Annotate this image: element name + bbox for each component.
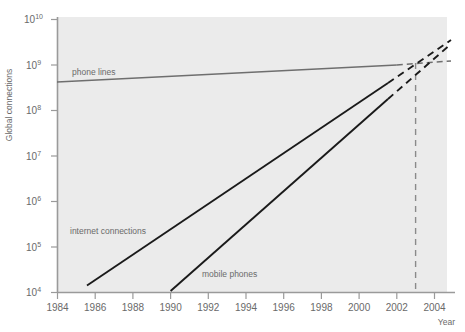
x-axis-title: Year	[438, 317, 455, 327]
y-tick-label-10-5: 105	[26, 241, 41, 253]
line-chart: 1010 109 108 107 106 105 104 Global conn…	[0, 0, 465, 332]
y-tick-label-10-8: 108	[26, 104, 41, 116]
y-tick-label-10-9: 109	[26, 59, 41, 71]
x-tick-label-1986: 1986	[84, 302, 107, 313]
y-axis-title: Global connections	[4, 69, 14, 141]
y-tick-label-10-4: 104	[26, 286, 41, 298]
y-tick-label-10-10: 1010	[24, 13, 43, 25]
x-tick-label-2004: 2004	[423, 302, 446, 313]
x-tick-label-2002: 2002	[386, 302, 409, 313]
x-tick-label-1994: 1994	[235, 302, 258, 313]
y-axis-tick-labels: 1010 109 108 107 106 105 104	[24, 13, 43, 298]
y-axis-ticks	[51, 20, 57, 293]
series-label-mobile-phones: mobile phones	[202, 269, 257, 279]
x-tick-label-1988: 1988	[122, 302, 145, 313]
y-tick-label-10-6: 106	[26, 195, 41, 207]
x-tick-label-2000: 2000	[348, 302, 371, 313]
x-tick-label-1984: 1984	[46, 302, 69, 313]
series-label-internet-connections: internet connections	[70, 226, 146, 236]
chart-page: 1010 109 108 107 106 105 104 Global conn…	[0, 0, 465, 332]
x-axis-ticks	[58, 293, 435, 300]
x-tick-label-1992: 1992	[197, 302, 220, 313]
x-axis-tick-labels: 1984 1986 1988 1990 1992 1994 1996 1998 …	[46, 302, 446, 313]
x-tick-label-1990: 1990	[159, 302, 182, 313]
y-tick-label-10-7: 107	[26, 150, 41, 162]
plot-background	[57, 17, 447, 292]
x-tick-label-1996: 1996	[273, 302, 296, 313]
series-label-phone-lines: phone lines	[72, 67, 115, 77]
x-tick-label-1998: 1998	[310, 302, 333, 313]
